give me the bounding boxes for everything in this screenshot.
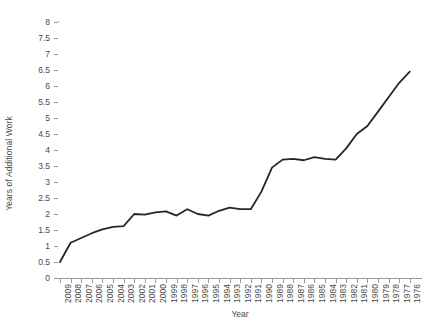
- y-tick-mark: [54, 214, 58, 215]
- y-tick-mark: [54, 134, 58, 135]
- x-tick-mark: [230, 279, 231, 283]
- x-tick-mark: [124, 279, 125, 283]
- y-tick-label: 8: [45, 18, 50, 27]
- x-tick-mark: [389, 279, 390, 283]
- x-tick-mark: [336, 279, 337, 283]
- x-tick-label: 2004: [117, 284, 126, 303]
- line-chart: Years of Additional Work 87.576.565.554.…: [0, 0, 437, 327]
- y-axis-title: Years of Additional Work: [0, 0, 18, 327]
- x-axis-title: Year: [58, 309, 422, 319]
- y-tick-mark: [54, 198, 58, 199]
- y-tick-label: 3: [45, 178, 50, 187]
- x-tick-label: 2002: [138, 284, 147, 303]
- x-tick-mark: [283, 279, 284, 283]
- y-tick-label: 2.5: [38, 194, 50, 203]
- x-tick-mark: [325, 279, 326, 283]
- y-tick-label: 4.5: [38, 130, 50, 139]
- x-tick-mark: [367, 279, 368, 283]
- x-tick-label: 1999: [170, 284, 179, 303]
- x-tick-mark: [71, 279, 72, 283]
- x-tick-label: 1982: [350, 284, 359, 303]
- x-tick-mark: [251, 279, 252, 283]
- x-tick-mark: [346, 279, 347, 283]
- x-tick-label: 2005: [106, 284, 115, 303]
- x-tick-label: 1991: [254, 284, 263, 303]
- x-tick-mark: [60, 279, 61, 283]
- y-tick-label: 2: [45, 210, 50, 219]
- x-tick-mark: [208, 279, 209, 283]
- x-tick-mark: [187, 279, 188, 283]
- x-tick-mark: [399, 279, 400, 283]
- x-tick-mark: [198, 279, 199, 283]
- y-tick-mark: [54, 38, 58, 39]
- y-axis-tick-labels: 87.576.565.554.543.532.521.510.50: [18, 16, 54, 280]
- x-tick-mark: [357, 279, 358, 283]
- x-tick-label: 1977: [403, 284, 412, 303]
- x-tick-label: 2007: [85, 284, 94, 303]
- x-tick-mark: [261, 279, 262, 283]
- series-line-layer: [58, 22, 421, 278]
- y-tick-label: 3.5: [38, 162, 50, 171]
- x-tick-label: 2008: [74, 284, 83, 303]
- x-tick-mark: [155, 279, 156, 283]
- x-tick-label: 1996: [201, 284, 210, 303]
- series-line: [60, 72, 410, 262]
- y-tick-label: 4: [45, 146, 50, 155]
- y-tick-mark: [54, 150, 58, 151]
- x-tick-label: 1984: [329, 284, 338, 303]
- y-tick-label: 1: [45, 242, 50, 251]
- y-tick-mark: [54, 230, 58, 231]
- x-tick-label: 2000: [159, 284, 168, 303]
- y-tick-label: 0: [45, 274, 50, 283]
- x-tick-label: 2009: [64, 284, 73, 303]
- x-tick-label: 1997: [191, 284, 200, 303]
- x-tick-label: 1994: [223, 284, 232, 303]
- x-tick-label: 1976: [413, 284, 422, 303]
- x-tick-label: 1979: [382, 284, 391, 303]
- x-tick-label: 2001: [148, 284, 157, 303]
- y-tick-mark: [54, 278, 58, 279]
- x-tick-mark: [240, 279, 241, 283]
- x-tick-mark: [219, 279, 220, 283]
- x-tick-label: 1987: [297, 284, 306, 303]
- x-tick-label: 2006: [95, 284, 104, 303]
- x-tick-label: 1993: [233, 284, 242, 303]
- y-tick-mark: [54, 86, 58, 87]
- x-tick-label: 1985: [318, 284, 327, 303]
- x-tick-label: 1998: [180, 284, 189, 303]
- x-tick-label: 2003: [127, 284, 136, 303]
- x-tick-mark: [113, 279, 114, 283]
- y-tick-mark: [54, 54, 58, 55]
- y-tick-mark: [54, 102, 58, 103]
- y-tick-label: 6.5: [38, 66, 50, 75]
- x-tick-label: 1992: [244, 284, 253, 303]
- x-tick-mark: [304, 279, 305, 283]
- x-tick-mark: [81, 279, 82, 283]
- y-tick-mark: [54, 246, 58, 247]
- x-tick-label: 1980: [371, 284, 380, 303]
- y-tick-label: 5: [45, 114, 50, 123]
- x-tick-label: 1981: [360, 284, 369, 303]
- x-tick-label: 1995: [212, 284, 221, 303]
- x-tick-label: 1990: [265, 284, 274, 303]
- x-tick-mark: [410, 279, 411, 283]
- y-tick-mark: [54, 166, 58, 167]
- x-tick-mark: [92, 279, 93, 283]
- y-tick-mark: [54, 262, 58, 263]
- x-tick-label: 1986: [307, 284, 316, 303]
- x-tick-label: 1988: [286, 284, 295, 303]
- x-tick-mark: [293, 279, 294, 283]
- y-tick-mark: [54, 182, 58, 183]
- x-tick-mark: [134, 279, 135, 283]
- x-tick-mark: [272, 279, 273, 283]
- y-tick-label: 7: [45, 50, 50, 59]
- y-tick-label: 0.5: [38, 258, 50, 267]
- y-tick-label: 7.5: [38, 34, 50, 43]
- y-tick-mark: [54, 22, 58, 23]
- x-tick-label: 1978: [392, 284, 401, 303]
- x-tick-mark: [314, 279, 315, 283]
- x-tick-mark: [145, 279, 146, 283]
- x-tick-mark: [177, 279, 178, 283]
- x-tick-label: 1989: [276, 284, 285, 303]
- x-tick-mark: [102, 279, 103, 283]
